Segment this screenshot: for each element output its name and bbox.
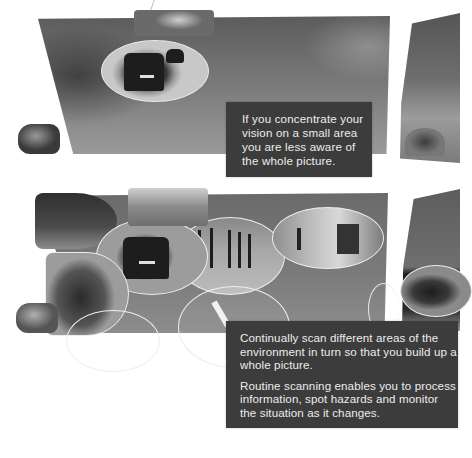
focus-area-oval <box>101 40 209 102</box>
caption-line: vision on a small area <box>242 126 372 140</box>
scan-area-street-ahead <box>128 188 208 226</box>
railing <box>337 224 359 254</box>
distant-car-icon <box>166 49 184 63</box>
caption-box-scanning: Continually scan different areas of the … <box>226 321 458 428</box>
caption-paragraph: Continually scan different areas of the … <box>240 331 458 372</box>
car-ahead-icon <box>124 53 164 91</box>
caption-box-narrow-focus: If you concentrate your vision on a smal… <box>226 102 372 177</box>
bollard <box>238 232 241 268</box>
bollard <box>228 230 231 268</box>
caption-line: you are less aware of <box>242 140 372 154</box>
mirror-cable <box>150 0 156 10</box>
side-mirror-left-icon <box>18 124 60 154</box>
caption-paragraph: Routine scanning enables you to process … <box>240 379 458 420</box>
scan-area-pedestrian <box>272 207 384 269</box>
license-plate <box>140 75 154 78</box>
bollard <box>248 234 251 268</box>
pedestrian-icon <box>297 228 301 250</box>
side-mirror-left-car-icon <box>16 303 58 333</box>
caption-line: If you concentrate your <box>242 112 372 126</box>
license-plate <box>139 261 155 264</box>
side-mirror-right-icon <box>405 128 445 156</box>
scan-area-road-left <box>66 310 160 372</box>
rearview-mirror-icon <box>134 10 214 36</box>
scan-area-side-car <box>400 265 472 317</box>
caption-line: the whole picture. <box>242 154 372 168</box>
bollard <box>210 228 213 268</box>
car-ahead-icon <box>123 237 169 279</box>
